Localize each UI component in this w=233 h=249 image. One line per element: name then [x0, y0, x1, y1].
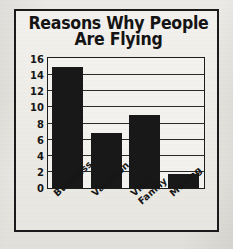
x-axis: BusinessVacationVisitFamilyMoving	[47, 191, 205, 246]
chart-title: Reasons Why People Are Flying	[23, 15, 214, 47]
y-tick-label: 2	[22, 168, 44, 178]
scanned-page: Reasons Why People Are Flying 0246810121…	[0, 0, 233, 249]
y-tick-label: 16	[22, 55, 44, 65]
chart-frame: Reasons Why People Are Flying 0246810121…	[14, 9, 219, 232]
y-tick-label: 10	[22, 103, 44, 113]
y-axis: 0246810121416	[19, 57, 44, 189]
y-tick-label: 12	[22, 87, 44, 97]
y-tick-label: 6	[22, 136, 44, 146]
y-tick-label: 8	[22, 120, 44, 130]
y-tick-label: 4	[22, 152, 44, 162]
y-tick-label: 0	[22, 184, 44, 194]
y-tick-label: 14	[22, 71, 44, 81]
chart-title-line-2: Are Flying	[23, 31, 214, 47]
